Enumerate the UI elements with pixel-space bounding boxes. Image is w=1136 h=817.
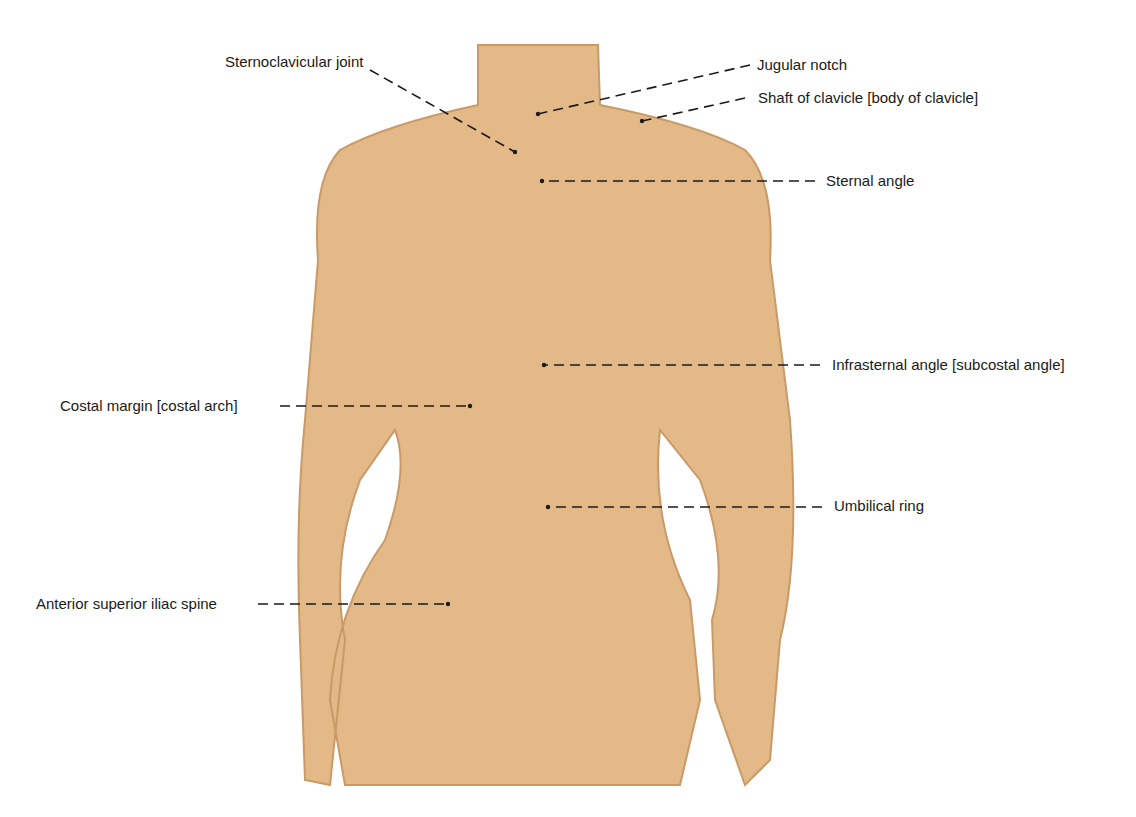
label-umbilical-ring: Umbilical ring bbox=[834, 497, 924, 515]
anatomy-figure: Sternoclavicular jointJugular notchShaft… bbox=[0, 0, 1136, 817]
leader-line-shaft-of-clavicle bbox=[642, 98, 745, 121]
landmark-dot-sternal-angle bbox=[540, 179, 544, 183]
label-infrasternal-angle: Infrasternal angle [subcostal angle] bbox=[832, 356, 1065, 374]
landmark-dot-costal-margin bbox=[468, 404, 472, 408]
landmark-dot-jugular-notch bbox=[536, 112, 540, 116]
torso-outline bbox=[298, 45, 793, 785]
label-sternoclavicular-joint: Sternoclavicular joint bbox=[225, 53, 363, 71]
landmark-dot-anterior-superior-iliac-spine bbox=[446, 602, 450, 606]
landmark-dot-sternoclavicular-joint bbox=[513, 150, 517, 154]
landmark-dot-umbilical-ring bbox=[546, 505, 550, 509]
label-shaft-of-clavicle: Shaft of clavicle [body of clavicle] bbox=[758, 89, 978, 107]
label-sternal-angle: Sternal angle bbox=[826, 172, 914, 190]
label-costal-margin: Costal margin [costal arch] bbox=[60, 397, 238, 415]
label-anterior-superior-iliac-spine: Anterior superior iliac spine bbox=[36, 595, 217, 613]
landmark-dot-infrasternal-angle bbox=[542, 363, 546, 367]
label-jugular-notch: Jugular notch bbox=[757, 56, 847, 74]
landmark-dot-shaft-of-clavicle bbox=[640, 119, 644, 123]
